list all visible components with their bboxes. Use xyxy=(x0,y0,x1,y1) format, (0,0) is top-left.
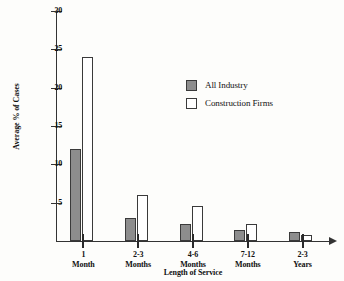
x-axis-tick-mark xyxy=(82,234,84,248)
y-axis-tick-label: 5 xyxy=(40,199,62,207)
y-axis-tick-label: 20 xyxy=(40,84,62,92)
y-axis-tick-label: 25 xyxy=(40,45,62,53)
chart-legend: All IndustryConstruction Firms xyxy=(186,76,273,112)
x-axis-tick-mark xyxy=(192,234,194,248)
x-axis-tick-label: 2-3Years xyxy=(268,250,338,270)
legend-item: All Industry xyxy=(186,76,273,94)
x-axis-tick-label-line1: 7-12 xyxy=(241,250,255,259)
x-axis-arrow-icon xyxy=(329,237,337,245)
legend-item: Construction Firms xyxy=(186,94,273,112)
x-axis-tick-mark xyxy=(137,234,139,248)
bar-chart: 51015202530 Average % of Cases 1Month2-3… xyxy=(0,0,344,281)
y-axis-title: Average % of Cases xyxy=(12,57,21,177)
bar xyxy=(180,224,191,241)
y-axis-tick-label: 10 xyxy=(40,160,62,168)
bar xyxy=(70,149,81,241)
y-axis-tick-label: 15 xyxy=(40,122,62,130)
y-axis-tick-label: 30 xyxy=(40,7,62,15)
legend-label: Construction Firms xyxy=(205,98,273,108)
bar xyxy=(82,57,93,241)
legend-swatch xyxy=(186,98,197,109)
x-axis-tick-label-line1: 2-3 xyxy=(297,250,307,259)
bar xyxy=(125,218,136,241)
x-axis-tick-label-line1: 2-3 xyxy=(133,250,143,259)
x-axis-tick-label-line1: 1 xyxy=(81,250,85,259)
bar xyxy=(234,230,245,242)
x-axis-tick-mark xyxy=(302,234,304,248)
legend-label: All Industry xyxy=(205,80,248,90)
x-axis-tick-label-line1: 4-6 xyxy=(188,250,198,259)
x-axis-title: Length of Service xyxy=(56,268,330,277)
x-axis-tick-mark xyxy=(247,234,249,248)
bar xyxy=(289,232,300,241)
legend-swatch xyxy=(186,80,197,91)
